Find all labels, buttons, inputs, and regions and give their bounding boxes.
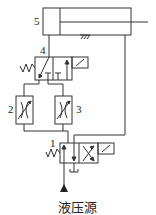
label-cylinder-5: 5 <box>34 16 40 27</box>
throttle-valve-3 <box>55 96 72 124</box>
valve-4 <box>20 57 88 80</box>
cylinder-5 <box>43 8 148 39</box>
label-throttle-2: 2 <box>8 104 14 115</box>
pressure-source-label: 液压源 <box>58 197 97 215</box>
throttle-valve-2 <box>16 96 33 124</box>
label-valve-1: 1 <box>50 138 56 149</box>
label-throttle-3: 3 <box>76 104 82 115</box>
label-valve-4: 4 <box>40 45 46 56</box>
valve-1 <box>46 143 114 172</box>
pressure-source-triangle-icon <box>60 184 68 192</box>
